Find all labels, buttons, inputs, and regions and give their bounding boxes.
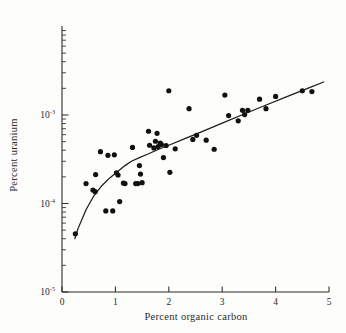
data-point	[130, 145, 135, 150]
data-point	[164, 143, 169, 148]
data-point	[263, 106, 268, 111]
data-points-group	[73, 88, 315, 236]
y-axis-tick-label: 10-3	[40, 108, 55, 120]
data-point	[110, 208, 115, 213]
data-point	[137, 163, 142, 168]
plot-canvas: 10-510-410-3012345 Percent organic carbo…	[0, 0, 346, 333]
data-point	[117, 199, 122, 204]
data-point	[236, 118, 241, 123]
data-point	[98, 149, 103, 154]
data-point	[300, 88, 305, 93]
data-point	[159, 142, 164, 147]
data-point	[154, 131, 159, 136]
data-point	[105, 153, 110, 158]
data-point	[83, 181, 88, 186]
data-point	[161, 155, 166, 160]
scatter-plot-figure: 10-510-410-3012345 Percent organic carbo…	[0, 0, 346, 333]
data-point	[93, 172, 98, 177]
data-point	[226, 113, 231, 118]
data-point	[309, 89, 314, 94]
data-point	[135, 181, 140, 186]
x-axis-tick-label: 5	[327, 297, 332, 307]
data-point	[257, 97, 262, 102]
y-axis-tick-label: 10-5	[40, 285, 55, 297]
x-axis-title: Percent organic carbon	[144, 311, 248, 322]
x-axis-tick-label: 0	[60, 297, 65, 307]
data-point	[146, 129, 151, 134]
data-point	[140, 180, 145, 185]
data-point	[186, 106, 191, 111]
data-point	[166, 88, 171, 93]
data-point	[273, 94, 278, 99]
data-point	[212, 147, 217, 152]
data-point	[115, 172, 120, 177]
data-point	[73, 231, 78, 236]
data-point	[204, 138, 209, 143]
x-axis-tick-label: 3	[220, 297, 225, 307]
tick-marks-group	[62, 31, 329, 292]
data-point	[245, 108, 250, 113]
data-point	[122, 181, 127, 186]
axes-group	[62, 26, 329, 292]
x-axis-tick-label: 4	[273, 297, 278, 307]
x-axis-tick-label: 1	[113, 297, 118, 307]
data-point	[103, 208, 108, 213]
y-axis-tick-label: 10-4	[40, 197, 55, 209]
data-point	[242, 112, 247, 117]
data-point	[173, 146, 178, 151]
data-point	[194, 133, 199, 138]
data-point	[138, 171, 143, 176]
data-point	[112, 152, 117, 157]
fit-curve-group	[75, 82, 324, 239]
data-point	[93, 189, 98, 194]
data-point	[153, 139, 158, 144]
fitted-trend-line	[75, 82, 324, 239]
x-axis-tick-label: 2	[166, 297, 171, 307]
y-axis-title: Percent uranium	[8, 118, 19, 192]
data-point	[167, 170, 172, 175]
data-point	[222, 92, 227, 97]
data-point	[190, 137, 195, 142]
